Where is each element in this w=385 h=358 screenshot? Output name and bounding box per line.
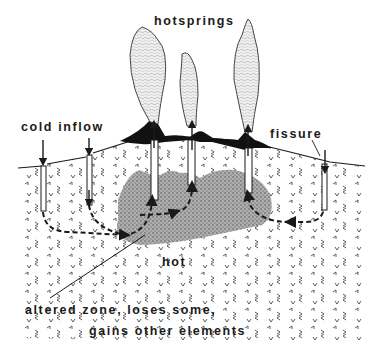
- steam-plume-middle: [180, 53, 198, 126]
- steam-plume-right: [234, 19, 259, 132]
- label-cold-inflow: cold inflow: [21, 120, 104, 134]
- label-fissure: fissure: [270, 127, 322, 141]
- steam-plume-left: [130, 27, 166, 124]
- label-altered-zone-line2: gains other elements: [89, 324, 246, 338]
- fissure-leader: [312, 140, 320, 156]
- label-hotsprings: hotsprings: [154, 14, 235, 28]
- label-altered-zone-line1: altered zone, loses some,: [25, 303, 216, 317]
- hotspring-diagram: hotsprings cold inflow fissure hot alter…: [0, 0, 385, 358]
- label-hot: hot: [162, 255, 186, 269]
- steam-plumes: [130, 19, 259, 132]
